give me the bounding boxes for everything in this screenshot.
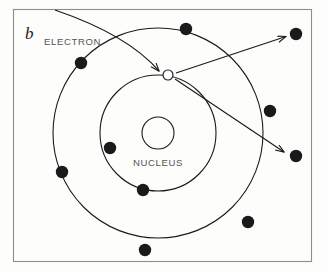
electron-outer-right xyxy=(264,105,276,117)
struck-electron-open-circle xyxy=(163,70,173,80)
atom-collision-figure: b ELECTRON NUCLEUS xyxy=(0,0,329,273)
electron-inner-lower xyxy=(137,184,149,196)
electron-outer-upper-left xyxy=(75,57,87,69)
nucleus-label: NUCLEUS xyxy=(133,157,183,168)
ejected-particle xyxy=(290,150,302,162)
electron-inner-left xyxy=(104,142,116,154)
electron-outer-top xyxy=(180,23,192,35)
electron-outer-left xyxy=(56,166,68,178)
scattered-particle xyxy=(290,28,302,40)
electron-outer-bottom xyxy=(139,244,151,256)
electron-label: ELECTRON xyxy=(44,36,101,47)
diagram-canvas: b ELECTRON NUCLEUS xyxy=(0,0,329,273)
electron-outer-lower-right xyxy=(242,216,254,228)
panel-label: b xyxy=(25,24,34,43)
